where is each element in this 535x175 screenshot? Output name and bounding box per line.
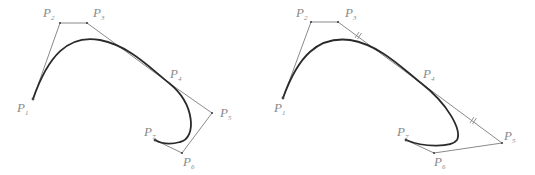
label-p2: P2: [295, 5, 308, 22]
label-p2: P2: [42, 5, 55, 22]
control-polygon-left: [33, 23, 212, 153]
label-p3: P3: [344, 5, 357, 22]
label-p5: P5: [503, 128, 516, 145]
control-polygon-right: [283, 22, 502, 153]
bezier-diagram: P1 P2 P3 P4 P5 P6 P7 P1 P: [0, 0, 535, 175]
label-p6: P6: [433, 154, 446, 171]
point-labels-left: P1 P2 P3 P4 P5 P6 P7: [16, 5, 232, 171]
label-p7: P7: [143, 124, 156, 141]
label-p4: P4: [169, 66, 182, 83]
spline-curve-right: [283, 39, 458, 145]
label-p6: P6: [182, 154, 195, 171]
right-panel: P1 P2 P3 P4 P5 P6 P7: [273, 5, 516, 171]
left-panel: P1 P2 P3 P4 P5 P6 P7: [16, 5, 232, 171]
label-p3: P3: [92, 5, 105, 22]
label-p5: P5: [219, 105, 232, 122]
control-points-left: [32, 22, 213, 154]
label-p1: P1: [273, 100, 285, 117]
label-p1: P1: [16, 100, 28, 117]
control-points-right: [282, 21, 504, 154]
label-p4: P4: [422, 66, 435, 83]
spline-curve-left: [33, 39, 191, 144]
label-p7: P7: [396, 124, 409, 141]
